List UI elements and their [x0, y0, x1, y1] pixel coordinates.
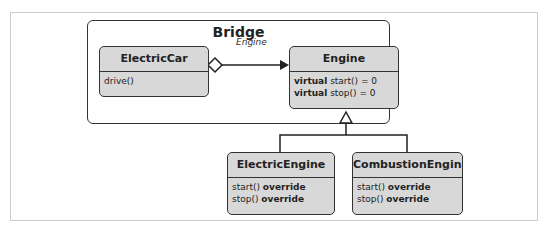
class-name: Engine: [290, 47, 398, 72]
class-electricengine: ElectricEngine start() override stop() o…: [227, 152, 335, 215]
class-name: CombustionEngine: [353, 153, 462, 178]
class-combustionengine: CombustionEngine start() override stop()…: [352, 152, 463, 215]
member-text: stop() = 0: [327, 88, 375, 98]
uml-diagram: Bridge Engine ElectricCar drive() Engine…: [0, 0, 550, 234]
member-suffix: override: [388, 182, 431, 192]
class-members: virtual start() = 0 virtual stop() = 0: [290, 72, 398, 102]
class-electriccar: ElectricCar drive(): [99, 46, 209, 97]
aggregation-diamond-icon: [208, 58, 222, 72]
class-members: drive(): [100, 72, 208, 90]
member-suffix: override: [261, 194, 304, 204]
class-engine: Engine virtual start() = 0 virtual stop(…: [289, 46, 399, 109]
class-name: ElectricCar: [100, 47, 208, 72]
class-members: start() override stop() override: [228, 178, 334, 208]
member-text: start(): [232, 182, 263, 192]
member-text: stop(): [232, 194, 261, 204]
member-suffix: override: [263, 182, 306, 192]
member-suffix: override: [386, 194, 429, 204]
class-members: start() override stop() override: [353, 178, 462, 208]
member-text: start(): [357, 182, 388, 192]
inheritance-triangle-icon: [340, 112, 352, 123]
class-name: ElectricEngine: [228, 153, 334, 178]
member-prefix: virtual: [294, 76, 327, 86]
arrowhead-icon: [280, 60, 289, 70]
member-text: drive(): [104, 76, 134, 86]
member-prefix: virtual: [294, 88, 327, 98]
association-label: Engine: [236, 37, 267, 47]
member-text: start() = 0: [327, 76, 377, 86]
member-text: stop(): [357, 194, 386, 204]
